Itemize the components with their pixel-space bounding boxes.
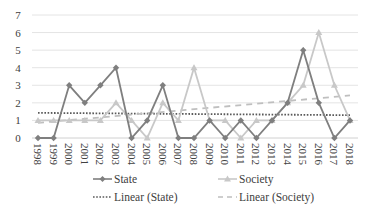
legend: State Society Linear (State) Linear (Soc…: [93, 173, 314, 204]
x-tick-label: 2015: [297, 143, 309, 166]
x-tick-label: 2002: [94, 143, 106, 165]
diamond-marker-icon: [100, 176, 106, 182]
legend-label-state: State: [114, 173, 137, 185]
data-point: [160, 82, 166, 88]
x-tick-label: 2012: [250, 143, 262, 165]
x-tick-label: 2018: [344, 143, 356, 166]
x-tick-label: 2011: [235, 143, 247, 165]
y-axis-ticks: 01234567: [15, 9, 21, 144]
y-tick-label: 3: [15, 79, 21, 91]
x-tick-label: 2006: [157, 143, 169, 166]
y-tick-label: 0: [15, 132, 21, 144]
x-tick-label: 2010: [219, 143, 231, 166]
data-point: [300, 47, 306, 53]
x-tick-label: 2007: [172, 143, 184, 166]
data-point: [35, 135, 41, 141]
y-tick-label: 2: [15, 97, 21, 109]
legend-item-linear-state: Linear (State): [93, 191, 178, 204]
legend-item-linear-society: Linear (Society): [218, 191, 314, 204]
x-tick-label: 2001: [79, 143, 91, 165]
legend-label-linear-state: Linear (State): [114, 191, 178, 204]
legend-label-linear-society: Linear (Society): [239, 191, 314, 204]
legend-label-society: Society: [239, 173, 274, 186]
x-axis-ticks: 1998199920002001200220032004200520062007…: [32, 143, 356, 166]
x-tick-label: 1998: [32, 143, 44, 166]
y-tick-label: 6: [15, 27, 21, 39]
x-tick-label: 2016: [313, 143, 325, 166]
legend-item-state: State: [93, 173, 137, 185]
x-tick-label: 2017: [328, 143, 340, 166]
x-tick-label: 2008: [188, 143, 200, 166]
x-tick-label: 2000: [63, 143, 75, 166]
x-tick-label: 2009: [204, 143, 216, 166]
trendline-state: [38, 113, 350, 115]
line-chart: 01234567 1998199920002001200220032004200…: [0, 0, 370, 210]
y-tick-label: 1: [15, 114, 21, 126]
y-tick-label: 7: [15, 9, 21, 21]
data-point: [175, 135, 181, 141]
data-point: [316, 100, 322, 106]
x-tick-label: 2013: [266, 143, 278, 166]
data-point: [50, 135, 56, 141]
legend-item-society: Society: [218, 173, 274, 186]
x-tick-label: 1999: [48, 143, 60, 166]
x-tick-label: 2014: [282, 143, 294, 166]
y-tick-label: 5: [15, 44, 21, 56]
x-tick-label: 2004: [126, 143, 138, 166]
x-tick-label: 2003: [110, 143, 122, 166]
series-state: [35, 47, 353, 141]
x-tick-label: 2005: [141, 143, 153, 166]
y-tick-label: 4: [15, 62, 21, 74]
